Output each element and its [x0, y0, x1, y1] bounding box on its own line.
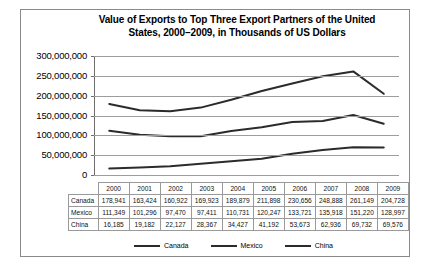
table-cell: 22,127: [160, 219, 191, 231]
plot-area: [94, 56, 399, 175]
table-row: Mexico111,349101,29697,47097,411110,7311…: [69, 207, 409, 219]
table-cell: 133,721: [284, 207, 315, 219]
table-row: Canada178,941163,424160,922169,923189,87…: [69, 195, 409, 207]
table-cell: 211,898: [253, 195, 284, 207]
y-axis-tick-label: 200,000,000: [36, 91, 87, 101]
y-axis-tick-label: 150,000,000: [36, 111, 87, 121]
gridline: [94, 116, 399, 117]
table-cell: 135,918: [315, 207, 346, 219]
series-line-canada: [109, 71, 384, 111]
y-axis-tick-label: 100,000,000: [36, 130, 87, 140]
chart-title-line-1: Value of Exports to Top Three Export Par…: [67, 14, 407, 27]
table-row: China16,18519,18222,12728,36734,42741,19…: [69, 219, 409, 231]
data-table: 2000200120022003200420052006200720082009…: [68, 182, 409, 231]
table-column-header: 2003: [191, 183, 222, 195]
y-axis-tick-mark: [91, 175, 94, 176]
y-axis-tick-label: 0: [82, 170, 87, 180]
table-cell: 204,728: [377, 195, 408, 207]
series-line-mexico: [109, 115, 384, 136]
table-column-header: 2002: [160, 183, 191, 195]
y-axis-tick-mark: [91, 116, 94, 117]
table-cell: 69,732: [346, 219, 377, 231]
table-cell: 97,470: [160, 207, 191, 219]
table-corner-cell: [69, 183, 99, 195]
y-axis-tick-mark: [91, 76, 94, 77]
gridline: [94, 96, 399, 97]
table-column-header: 2005: [253, 183, 284, 195]
y-axis-tick-mark: [91, 155, 94, 156]
y-axis-tick-labels: 300,000,000250,000,000200,000,000150,000…: [21, 50, 91, 176]
y-axis-tick-mark: [91, 135, 94, 136]
table-column-header: 2001: [129, 183, 160, 195]
table-cell: 111,349: [98, 207, 129, 219]
gridline: [94, 135, 399, 136]
table-cell: 248,888: [315, 195, 346, 207]
table-cell: 120,247: [253, 207, 284, 219]
y-axis-tick-label: 250,000,000: [36, 71, 87, 81]
table-cell: 261,149: [346, 195, 377, 207]
table-cell: 28,367: [191, 219, 222, 231]
chart-legend: CanadaMexicoChina: [68, 242, 399, 250]
y-axis-tick-label: 50,000,000: [41, 150, 87, 160]
legend-swatch: [211, 245, 237, 248]
gridline: [94, 56, 399, 57]
table-cell: 53,673: [284, 219, 315, 231]
chart-title: Value of Exports to Top Three Export Par…: [67, 14, 407, 39]
legend-item-mexico: Mexico: [211, 242, 263, 250]
table-cell: 110,731: [222, 207, 253, 219]
legend-label: Canada: [164, 242, 189, 250]
series-line-china: [109, 147, 384, 168]
table-body: Canada178,941163,424160,922169,923189,87…: [69, 195, 409, 231]
table-column-header: 2007: [315, 183, 346, 195]
table-cell: 163,424: [129, 195, 160, 207]
table-row-header: China: [69, 219, 99, 231]
chart-frame: Value of Exports to Top Three Export Par…: [20, 9, 410, 257]
table-cell: 178,941: [98, 195, 129, 207]
table-column-header: 2008: [346, 183, 377, 195]
table-cell: 230,656: [284, 195, 315, 207]
y-axis-tick-mark: [91, 56, 94, 57]
legend-item-canada: Canada: [134, 242, 189, 250]
table-cell: 34,427: [222, 219, 253, 231]
gridline: [94, 76, 399, 77]
y-axis-tick-label: 300,000,000: [36, 51, 87, 61]
table-row-header: Canada: [69, 195, 99, 207]
table-column-header: 2000: [98, 183, 129, 195]
table-cell: 41,192: [253, 219, 284, 231]
table-cell: 169,923: [191, 195, 222, 207]
legend-swatch: [134, 245, 160, 248]
table-cell: 97,411: [191, 207, 222, 219]
gridline: [94, 155, 399, 156]
table-cell: 128,997: [377, 207, 408, 219]
chart-title-line-2: States, 2000–2009, in Thousands of US Do…: [67, 27, 407, 40]
table-cell: 62,936: [315, 219, 346, 231]
table-cell: 16,185: [98, 219, 129, 231]
table-header-row: 2000200120022003200420052006200720082009: [69, 183, 409, 195]
table-column-header: 2009: [377, 183, 408, 195]
table-cell: 69,576: [377, 219, 408, 231]
table-cell: 19,182: [129, 219, 160, 231]
y-axis-tick-mark: [91, 96, 94, 97]
table-column-header: 2004: [222, 183, 253, 195]
legend-swatch: [285, 245, 311, 248]
table-cell: 151,220: [346, 207, 377, 219]
legend-item-china: China: [285, 242, 333, 250]
legend-label: China: [315, 242, 333, 250]
table-cell: 189,879: [222, 195, 253, 207]
table-row-header: Mexico: [69, 207, 99, 219]
table-cell: 101,296: [129, 207, 160, 219]
gridline: [94, 175, 399, 176]
legend-label: Mexico: [241, 242, 263, 250]
table-column-header: 2006: [284, 183, 315, 195]
table-cell: 160,922: [160, 195, 191, 207]
